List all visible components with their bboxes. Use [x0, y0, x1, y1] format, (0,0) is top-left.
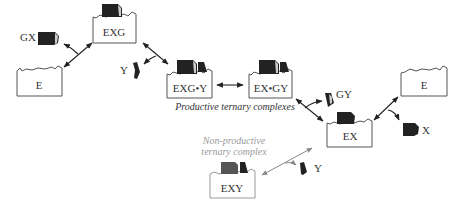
label-gy: GY	[336, 88, 352, 100]
label-exg: EXG	[103, 26, 126, 38]
label-ex: EX	[343, 130, 358, 142]
caption-nonproductive-1: Non-productive	[202, 135, 266, 146]
arrow-x-release	[388, 110, 399, 120]
mechanism-diagram: E GX EXG Y EXG•Y EX•GY Productive tern	[0, 0, 463, 205]
arrow-y-nonproductive	[285, 162, 296, 165]
label-y-top: Y	[120, 64, 128, 76]
label-e-right: E	[421, 79, 428, 91]
complex-ex: EX	[327, 112, 372, 147]
complex-exg-y: EXG•Y	[167, 60, 212, 98]
caption-productive: Productive ternary complexes	[174, 101, 295, 112]
label-e-left: E	[36, 79, 43, 91]
label-exy: EXY	[221, 182, 244, 194]
label-gx: GX	[20, 31, 36, 43]
caption-nonproductive-2: ternary complex	[201, 146, 267, 157]
enzyme-e-left: E	[17, 66, 62, 96]
arrow-ex-e	[374, 97, 398, 120]
arrow-gy-release	[305, 101, 322, 108]
arrow-gx-release	[64, 44, 78, 54]
label-exg-y: EXG•Y	[173, 82, 207, 94]
label-x: X	[422, 124, 430, 136]
y-shape-icon-bottom	[300, 162, 307, 175]
complex-exg: EXG	[93, 4, 136, 43]
enzyme-e-right: E	[401, 66, 447, 96]
ligand-gx: GX	[20, 31, 59, 45]
arrow-y-bind	[144, 56, 156, 64]
label-ex-gy: EX•GY	[254, 82, 288, 94]
complex-ex-gy: EX•GY	[249, 60, 292, 98]
y-shape-icon	[133, 62, 140, 79]
label-y-bottom: Y	[314, 162, 322, 174]
x-shape-icon	[403, 123, 419, 136]
complex-exy: EXY	[210, 162, 255, 198]
arrow-exgy-ex	[296, 99, 323, 121]
